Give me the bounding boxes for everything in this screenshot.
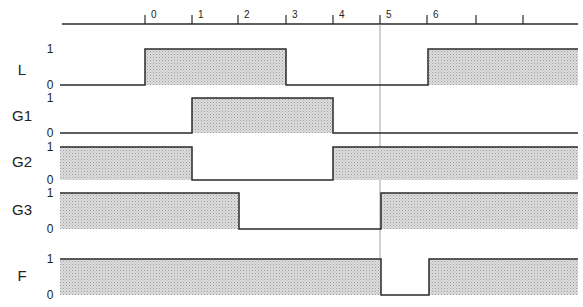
level-high-label: 1 [47, 140, 54, 154]
signal-name: L [18, 61, 26, 78]
signal-rows: L10G110G210G310F10 [12, 42, 578, 302]
level-low-label: 0 [47, 288, 54, 302]
timing-diagram: 0123456 L10G110G210G310F10 [0, 0, 583, 307]
signal-row-l: L10 [18, 42, 578, 92]
tick-label: 4 [339, 9, 345, 20]
tick-label: 0 [151, 9, 157, 20]
high-region [381, 193, 578, 229]
tick-label: 6 [433, 9, 439, 20]
signal-name: G3 [12, 201, 32, 218]
tick-label: 5 [386, 9, 392, 20]
level-high-label: 1 [47, 91, 54, 105]
level-low-label: 0 [47, 78, 54, 92]
high-region [429, 259, 578, 295]
level-high-label: 1 [47, 42, 54, 56]
level-high-label: 1 [47, 186, 54, 200]
level-high-label: 1 [47, 252, 54, 266]
tick-label: 3 [292, 9, 298, 20]
tick-label: 2 [244, 9, 250, 20]
signal-row-f: F10 [17, 252, 578, 302]
high-region [333, 147, 578, 180]
high-region [60, 193, 239, 229]
signal-row-g1: G110 [12, 91, 578, 140]
high-region [60, 147, 192, 180]
signal-name: G1 [12, 107, 32, 124]
signal-row-g2: G210 [12, 140, 578, 187]
level-low-label: 0 [47, 222, 54, 236]
high-region [145, 49, 286, 85]
high-region [428, 49, 578, 85]
level-low-label: 0 [47, 126, 54, 140]
time-axis: 0123456 [62, 9, 578, 24]
high-region [192, 98, 333, 133]
level-low-label: 0 [47, 173, 54, 187]
high-region [60, 259, 381, 295]
signal-name: F [17, 267, 26, 284]
tick-label: 1 [198, 9, 204, 20]
signal-name: G2 [12, 153, 32, 170]
signal-row-g3: G310 [12, 186, 578, 236]
